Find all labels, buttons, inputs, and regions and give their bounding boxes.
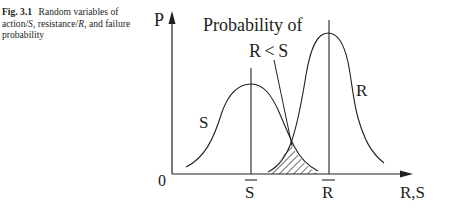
mean-s-label: S [245, 183, 254, 202]
curve-r-label: R [356, 81, 368, 100]
probability-diagram: P 0 R,S Probability of R < S S R S R [0, 0, 453, 210]
curve-s-label: S [199, 113, 208, 132]
x-axis-arrow-icon [400, 171, 413, 178]
origin-label: 0 [158, 172, 166, 189]
mean-r-label: R [322, 183, 334, 202]
x-axis-label: R,S [400, 183, 425, 202]
annotation-pointer [274, 60, 292, 146]
failure-region-hatch [268, 144, 318, 174]
annotation-line-2: R < S [249, 41, 288, 61]
annotation-line-1: Probability of [203, 15, 303, 35]
y-axis-label: P [154, 10, 164, 30]
y-axis-arrow-icon [169, 11, 176, 24]
